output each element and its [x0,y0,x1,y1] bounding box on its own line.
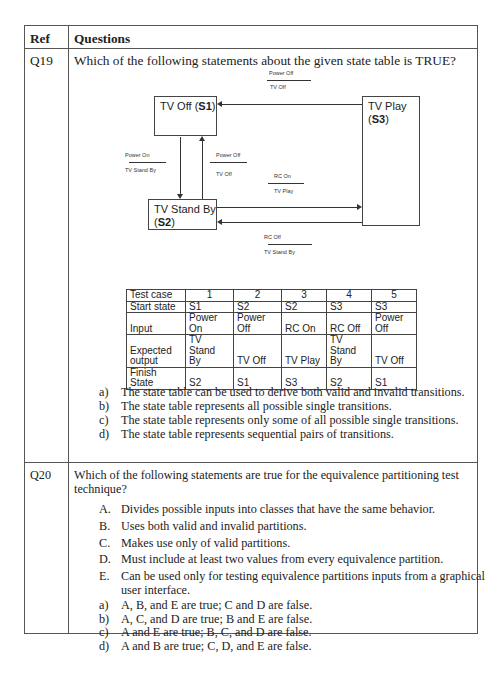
row-label: Test case [127,290,186,302]
statement-d: Must include at least two values from ev… [121,552,443,566]
table-cell: TV Play [282,335,327,368]
transition-divider [210,162,247,163]
option-c: A and E are true; B, C, and D are false. [121,625,312,639]
transition-s2-s1-event: Power Off [216,152,240,158]
table-cell: Power Off [372,313,417,335]
transition-s1-s2-event: Power On [125,152,149,158]
state-s2: TV Stand By (S2) [148,199,217,230]
table-cell: S2 [282,301,327,313]
header-ref: Ref [30,31,50,46]
table-cell: 3 [282,290,327,302]
option-label: a) [99,598,108,612]
table-row: Input Power On Power Off RC On RC Off Po… [127,313,417,335]
row-label: Start state [127,301,186,313]
table-cell: 2 [234,290,282,302]
transition-divider [268,183,304,184]
state-table: Test case 1 2 3 4 5 Start state S1 S2 S2… [126,289,417,390]
table-cell: S3 [372,301,417,313]
table-cell: S2 [234,301,282,313]
statement-label: A. [99,502,111,516]
table-cell: Power Off [234,313,282,335]
table-cell: RC Off [327,313,372,335]
table-cell: RC On [282,313,327,335]
statement-e-continued: user interface. [121,583,190,597]
arrowhead-left-icon [217,219,222,225]
option-label: c) [99,413,108,427]
q19-ref: Q19 [30,53,53,68]
table-cell: TV Stand By [327,335,372,368]
state-s1: TV Off (S1) [154,96,217,136]
table-row: Expected output TV Stand By TV Off TV Pl… [127,335,417,368]
column-divider [68,25,69,634]
arrow-s1-s2 [180,137,181,195]
option-label: d) [99,427,109,441]
option-b: A, C, and D are true; B and E are false. [121,612,312,626]
table-row: Test case 1 2 3 4 5 [127,290,417,302]
table-row: Start state S1 S2 S2 S3 S3 [127,301,417,313]
arrowhead-left-icon [217,101,222,107]
transition-s3-s2-event: RC Off [264,234,281,240]
state-s2-name: TV Stand By [154,203,216,216]
option-label: a) [99,385,108,399]
table-cell: TV Off [372,335,417,368]
table-cell: 5 [372,290,417,302]
option-a: A, B, and E are true; C and D are false. [121,598,312,612]
arrow-s2-s3 [217,207,358,208]
q20-question-line2: technique? [74,482,127,496]
row-divider [24,462,477,463]
option-c: The state table represents only some of … [121,413,458,427]
state-s3-name: TV Play [368,100,419,113]
transition-s2-s3-action: TV Play [274,188,293,194]
statement-label: E. [99,569,110,583]
table-border-left [24,25,25,634]
option-b: The state table represents all possible … [121,399,392,413]
q19-question: Which of the following statements about … [74,53,456,68]
option-d: A and B are true; C, D, and E are false. [121,639,312,653]
statement-c: Makes use only of valid partitions. [121,536,290,550]
statement-label: B. [99,519,110,533]
statement-a: Divides possible inputs into classes tha… [121,502,435,516]
state-s2-id: S2 [158,216,171,228]
arrow-s3-s1 [219,104,362,105]
transition-s2-s3-event: RC On [274,173,291,179]
state-s3-id: S3 [372,113,385,125]
transition-divider [267,80,311,81]
table-cell: 1 [186,290,234,302]
transition-divider [268,244,312,245]
transition-s1-s2-action: TV Stand By [125,167,156,173]
table-cell: S1 [186,301,234,313]
transition-divider [129,162,166,163]
q20-question-line1: Which of the following statements are tr… [74,468,459,482]
statement-b: Uses both valid and invalid partitions. [121,519,307,533]
option-label: c) [99,625,108,639]
state-s3: TV Play (S3) [362,96,420,226]
state-s1-name: TV Off ( [160,100,198,112]
option-a: The state table can be used to derive bo… [121,385,465,399]
row-label: Expected output [127,335,186,368]
option-d: The state table represents sequential pa… [121,427,394,441]
transition-s3-s1-action: TV Off [270,84,286,90]
q20-ref: Q20 [30,468,51,483]
table-border-top [24,25,477,26]
option-label: b) [99,612,109,626]
row-label: Input [127,313,186,335]
statement-label: D. [99,552,111,566]
table-border-right [477,25,478,634]
arrowhead-down-icon [177,194,183,199]
statement-e: Can be used only for testing equivalence… [121,569,485,583]
arrowhead-up-icon [199,136,205,141]
transition-s2-s1-action: TV Off [216,171,232,177]
table-cell: TV Off [234,335,282,368]
table-cell: TV Stand By [186,335,234,368]
state-s1-id: S1 [198,100,211,112]
arrowhead-right-icon [357,204,362,210]
table-cell: S3 [327,301,372,313]
table-cell: Power On [186,313,234,335]
option-label: b) [99,399,109,413]
header-divider [24,48,477,49]
header-questions: Questions [74,31,130,46]
transition-s3-s1-event: Power Off [269,70,293,76]
option-label: d) [99,639,109,653]
statement-label: C. [99,536,110,550]
transition-s3-s2-action: TV Stand By [264,249,295,255]
